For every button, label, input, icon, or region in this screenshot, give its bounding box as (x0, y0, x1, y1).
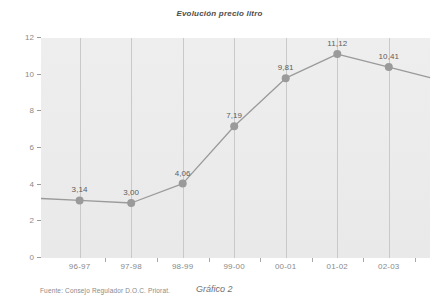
data-point-marker (282, 74, 290, 82)
y-axis-tick: 8 (0, 105, 41, 117)
chart-title: Evolución precio litro (0, 9, 439, 18)
data-point-marker (385, 63, 393, 71)
y-axis-tick: 6 (0, 142, 41, 154)
data-point-label: 4,06 (175, 169, 191, 178)
y-axis-tick: 2 (0, 215, 41, 227)
line-series (41, 38, 430, 258)
y-axis-tick: 4 (0, 179, 41, 191)
data-point-label: 3,14 (72, 185, 88, 194)
data-point-label: 9,81 (278, 63, 294, 72)
data-point-label: 10,41 (379, 52, 400, 61)
data-point-label: 3,00 (123, 188, 139, 197)
y-axis-tick: 0 (0, 252, 41, 264)
y-axis-tick: 10 (0, 69, 41, 81)
x-axis-tick-mark (415, 258, 416, 262)
y-axis-tick-label: 6 (30, 143, 34, 152)
y-axis-tick-label: 10 (25, 70, 34, 79)
source-note: Fuente: Consejo Regulador D.O.C. Priorat… (40, 287, 170, 294)
data-point-marker (127, 199, 135, 207)
y-axis-tick-label: 8 (30, 106, 34, 115)
y-axis-tick-label: 0 (30, 253, 34, 262)
x-axis-tick-label: 02-03 (359, 262, 419, 271)
y-axis-tick-label: 4 (30, 180, 34, 189)
y-axis-tick-label: 12 (25, 33, 34, 42)
y-axis-tick-label: 2 (30, 216, 34, 225)
data-point-marker (76, 196, 84, 204)
data-point-label: 11,12 (327, 39, 347, 48)
data-point-label: 7,19 (226, 111, 242, 120)
data-point-marker (230, 122, 238, 130)
y-axis: 024681012 (0, 0, 41, 307)
figure-caption: Gráfico 2 (196, 284, 233, 294)
y-axis-tick: 12 (0, 32, 41, 44)
data-point-marker (333, 50, 341, 58)
chart-figure: Evolución precio litro 024681012 96-9797… (0, 0, 439, 307)
data-point-marker (179, 180, 187, 188)
